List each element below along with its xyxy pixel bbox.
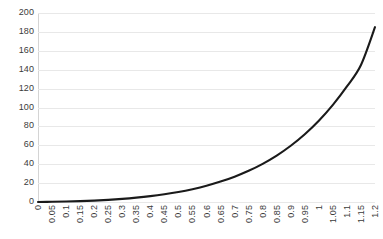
x-tick-label: 0.55 bbox=[185, 204, 199, 238]
x-tick-label-text: 0.85 bbox=[272, 205, 281, 223]
x-tick-label: 0.35 bbox=[129, 204, 143, 238]
x-tick-label: 1.2 bbox=[368, 204, 382, 238]
x-tick-label-text: 0.15 bbox=[76, 205, 85, 223]
x-tick-label: 0.45 bbox=[157, 204, 171, 238]
series-line-exponential bbox=[38, 13, 375, 202]
x-tick-label: 0.7 bbox=[228, 204, 242, 238]
x-tick-label-text: 1.2 bbox=[371, 205, 380, 218]
plot-area bbox=[38, 13, 375, 202]
x-tick-label: 0.1 bbox=[59, 204, 73, 238]
y-tick-label: 20 bbox=[0, 178, 34, 187]
x-tick-label-text: 0.35 bbox=[132, 205, 141, 223]
y-tick-label: 80 bbox=[0, 121, 34, 130]
y-tick-label: 60 bbox=[0, 140, 34, 149]
x-axis-tick-labels: 00.050.10.150.20.250.30.350.40.450.50.55… bbox=[38, 204, 375, 239]
x-tick-label: 0.3 bbox=[115, 204, 129, 238]
y-tick-label: 140 bbox=[0, 65, 34, 74]
series-path bbox=[38, 27, 375, 202]
x-tick-label-text: 0.95 bbox=[300, 205, 309, 223]
x-tick-label: 0.6 bbox=[200, 204, 214, 238]
x-tick-label: 0.85 bbox=[270, 204, 284, 238]
x-tick-label-text: 0.5 bbox=[174, 205, 183, 218]
x-tick-label-text: 0.2 bbox=[90, 205, 99, 218]
x-tick-label: 0.65 bbox=[214, 204, 228, 238]
x-tick-label-text: 0.9 bbox=[286, 205, 295, 218]
x-tick-label-text: 0.45 bbox=[160, 205, 169, 223]
x-tick-label-text: 0.8 bbox=[258, 205, 267, 218]
x-tick-label: 1.1 bbox=[340, 204, 354, 238]
x-tick-label-text: 1 bbox=[314, 205, 323, 210]
x-tick-label-text: 0.75 bbox=[244, 205, 253, 223]
y-tick-label: 160 bbox=[0, 46, 34, 55]
x-tick-label: 1 bbox=[312, 204, 326, 238]
x-tick-label-text: 0.25 bbox=[104, 205, 113, 223]
x-tick-label: 0 bbox=[31, 204, 45, 238]
y-tick-label: 40 bbox=[0, 159, 34, 168]
x-tick-label: 1.05 bbox=[326, 204, 340, 238]
x-tick-label-text: 1.05 bbox=[328, 205, 337, 223]
x-tick-label: 0.2 bbox=[87, 204, 101, 238]
x-tick-label-text: 0.7 bbox=[230, 205, 239, 218]
x-tick-label-text: 0 bbox=[34, 205, 43, 210]
x-tick-label: 0.4 bbox=[143, 204, 157, 238]
y-tick-label: 120 bbox=[0, 84, 34, 93]
x-tick-label-text: 0.65 bbox=[216, 205, 225, 223]
y-tick-label: 180 bbox=[0, 27, 34, 36]
x-tick-label: 0.25 bbox=[101, 204, 115, 238]
gridline bbox=[38, 202, 375, 203]
x-tick-label-text: 0.05 bbox=[48, 205, 57, 223]
x-tick-label-text: 0.3 bbox=[118, 205, 127, 218]
x-tick-label: 0.75 bbox=[242, 204, 256, 238]
x-tick-label: 0.8 bbox=[256, 204, 270, 238]
y-tick-label: 200 bbox=[0, 8, 34, 17]
x-tick-label: 0.9 bbox=[284, 204, 298, 238]
x-tick-label-text: 0.1 bbox=[62, 205, 71, 218]
x-tick-label: 0.05 bbox=[45, 204, 59, 238]
line-chart: 020406080100120140160180200 00.050.10.15… bbox=[0, 0, 383, 239]
y-axis-tick-labels: 020406080100120140160180200 bbox=[0, 0, 34, 239]
y-tick-label: 100 bbox=[0, 103, 34, 112]
x-tick-label-text: 0.55 bbox=[188, 205, 197, 223]
x-tick-label-text: 0.6 bbox=[202, 205, 211, 218]
x-tick-label-text: 1.15 bbox=[356, 205, 365, 223]
x-tick-label-text: 0.4 bbox=[146, 205, 155, 218]
y-tick-label: 0 bbox=[0, 197, 34, 206]
x-tick-label: 0.15 bbox=[73, 204, 87, 238]
x-tick-label: 0.5 bbox=[171, 204, 185, 238]
x-tick-label: 0.95 bbox=[298, 204, 312, 238]
x-tick-label-text: 1.1 bbox=[342, 205, 351, 218]
x-tick-label: 1.15 bbox=[354, 204, 368, 238]
